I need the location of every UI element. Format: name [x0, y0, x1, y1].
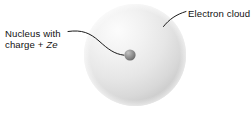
nucleus-label: Nucleus with charge + Ze — [5, 28, 61, 50]
nucleus-label-charge-text: charge + — [5, 39, 46, 50]
atom-diagram-figure: Nucleus with charge + Ze Electron cloud — [0, 0, 252, 113]
nucleus-label-line2: charge + Ze — [5, 39, 61, 50]
nucleus-label-line1: Nucleus with — [5, 28, 61, 39]
nucleus-label-charge-symbol: Ze — [46, 39, 57, 50]
nucleus-sphere — [124, 49, 135, 60]
electron-cloud-label: Electron cloud — [188, 8, 250, 19]
